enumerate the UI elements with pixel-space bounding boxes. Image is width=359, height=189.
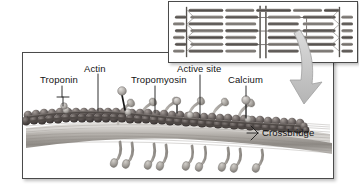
figure-root: Troponin Actin Tropomyosin Active site C…	[0, 0, 359, 189]
label-actin: Actin	[84, 63, 106, 74]
leader-troponin	[57, 86, 69, 106]
label-calcium: Calcium	[228, 74, 263, 85]
label-active-site: Active site	[177, 63, 221, 74]
label-crossbridge: Crossbridge	[262, 127, 314, 138]
label-tropomyosin: Tropomyosin	[131, 74, 187, 85]
label-troponin: Troponin	[40, 74, 78, 85]
label-leader-lines	[0, 0, 359, 189]
